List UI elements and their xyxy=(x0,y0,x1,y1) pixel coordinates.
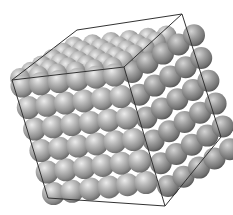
sphere-left xyxy=(135,171,158,194)
sphere-left xyxy=(122,128,145,151)
sphere-left xyxy=(128,150,151,173)
sphere-left xyxy=(116,107,139,130)
sphere-left xyxy=(109,85,132,108)
cube-edge xyxy=(48,198,165,206)
lattice-render xyxy=(0,0,233,215)
sphere-lattice xyxy=(10,24,233,205)
lattice-canvas xyxy=(0,0,233,215)
